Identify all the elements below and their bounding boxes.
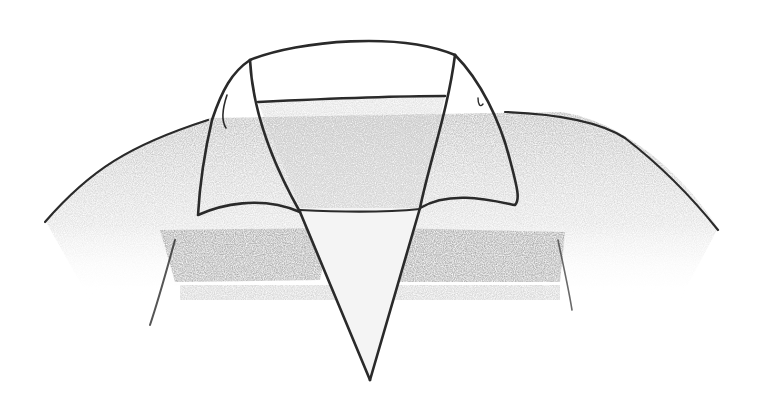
collar-sketch bbox=[0, 0, 764, 394]
sketch-canvas bbox=[0, 0, 764, 394]
